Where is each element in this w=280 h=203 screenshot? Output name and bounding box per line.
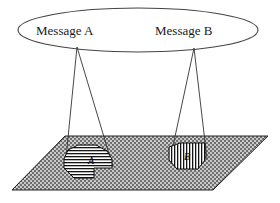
diagram-svg: AB Message AMessage B	[0, 0, 280, 203]
region-b: B	[169, 143, 205, 169]
message-labels: Message AMessage B	[36, 23, 213, 38]
region-label-b: B	[184, 151, 190, 162]
figure-canvas: AB Message AMessage B	[0, 0, 280, 203]
message-label-b: Message B	[155, 23, 213, 38]
region-label-a: A	[87, 155, 95, 166]
message-label-a: Message A	[36, 23, 94, 38]
ground-plane	[12, 136, 268, 190]
